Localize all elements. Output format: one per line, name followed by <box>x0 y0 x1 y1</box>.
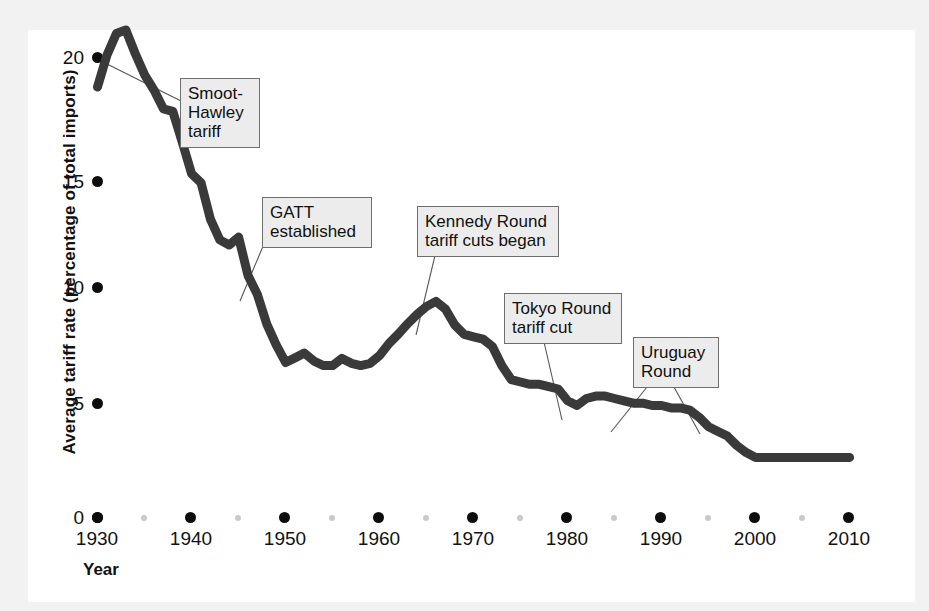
annotation-kennedy-round: Kennedy Round tariff cuts began <box>417 206 559 257</box>
figure-background: Average tariff rate (percentage of total… <box>0 0 929 611</box>
annotation-gatt: GATT established <box>262 197 372 248</box>
chart-panel: Average tariff rate (percentage of total… <box>28 30 915 602</box>
annotation-uruguay-round: Uruguay Round <box>633 337 719 388</box>
annotation-tokyo-round: Tokyo Round tariff cut <box>504 293 622 344</box>
annotation-smoot-hawley: Smoot- Hawley tariff <box>180 78 260 148</box>
tariff-rate-line-chart <box>28 30 915 602</box>
